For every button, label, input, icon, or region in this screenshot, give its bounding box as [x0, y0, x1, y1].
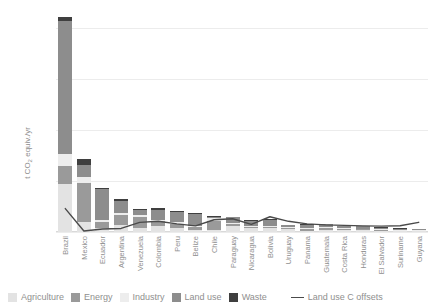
x-label-slot: Honduras — [354, 234, 373, 280]
legend-label: Land use — [185, 292, 222, 302]
gridline — [56, 232, 428, 233]
legend-line-icon — [291, 297, 304, 298]
x-tick-label: Colombia — [154, 236, 163, 268]
x-tick-label: Nicaragua — [247, 236, 256, 270]
legend-item-waste[interactable]: Waste — [229, 292, 267, 302]
x-tick-label: Peru — [172, 236, 181, 252]
y-axis-title-pre: t CO — [23, 162, 32, 178]
x-axis-labels: BrazilMexicoEcuadorArgentinaVenezuelaCol… — [56, 234, 428, 280]
y-axis-title-sub: 2 — [27, 159, 33, 162]
stacked-bar-chart: t CO2 equiv./yr 05001,0001,5002,000 Braz… — [0, 0, 433, 306]
plot-area: 05001,0001,5002,000 — [56, 8, 428, 232]
x-label-slot: Uruguay — [279, 234, 298, 280]
legend-label: Agriculture — [21, 292, 64, 302]
x-tick-label: Mexico — [79, 236, 88, 260]
legend-item-energy[interactable]: Energy — [71, 292, 113, 302]
y-axis-title-post: equiv./yr — [23, 127, 32, 159]
x-label-slot: Guatemala — [316, 234, 335, 280]
chart-legend: AgricultureEnergyIndustryLand useWasteLa… — [8, 292, 428, 302]
legend-swatch-icon — [120, 293, 129, 302]
x-label-slot: Belize — [186, 234, 205, 280]
x-label-slot: Chile — [205, 234, 224, 280]
x-label-slot: Paraguay — [223, 234, 242, 280]
x-tick-label: Bolivia — [265, 236, 274, 258]
legend-swatch-icon — [71, 293, 80, 302]
legend-item-land-use[interactable]: Land use — [172, 292, 222, 302]
legend-item-land-use-c-offsets[interactable]: Land use C offsets — [291, 292, 383, 302]
y-axis-title: t CO2 equiv./yr — [23, 127, 34, 179]
x-tick-label: Suriname — [395, 236, 404, 268]
x-label-slot: Bolivia — [261, 234, 280, 280]
x-tick-label: Ecuador — [98, 236, 107, 264]
x-label-slot: Venezuela — [130, 234, 149, 280]
legend-label: Land use C offsets — [308, 292, 383, 302]
x-tick-label: Argentina — [117, 236, 126, 268]
x-tick-label: Belize — [191, 236, 200, 256]
legend-label: Energy — [84, 292, 113, 302]
x-tick-label: El Salvador — [377, 236, 386, 274]
x-label-slot: Costa Rica — [335, 234, 354, 280]
x-tick-label: Guyana — [414, 236, 423, 262]
x-label-slot: Panama — [298, 234, 317, 280]
x-label-slot: Nicaragua — [242, 234, 261, 280]
x-label-slot: Peru — [168, 234, 187, 280]
x-tick-label: Uruguay — [284, 236, 293, 264]
x-label-slot: Guyana — [409, 234, 428, 280]
x-tick-label: Paraguay — [228, 236, 237, 268]
x-label-slot: El Salvador — [372, 234, 391, 280]
legend-label: Waste — [242, 292, 267, 302]
legend-item-industry[interactable]: Industry — [120, 292, 165, 302]
legend-item-agriculture[interactable]: Agriculture — [8, 292, 64, 302]
x-label-slot: Suriname — [391, 234, 410, 280]
x-tick-label: Honduras — [358, 236, 367, 269]
x-tick-label: Costa Rica — [340, 236, 349, 273]
x-label-slot: Brazil — [56, 234, 75, 280]
x-label-slot: Mexico — [75, 234, 94, 280]
land-use-c-offsets-line — [56, 8, 428, 232]
x-tick-label: Panama — [303, 236, 312, 264]
legend-swatch-icon — [229, 293, 238, 302]
x-label-slot: Colombia — [149, 234, 168, 280]
legend-swatch-icon — [172, 293, 181, 302]
legend-swatch-icon — [8, 293, 17, 302]
x-label-slot: Ecuador — [93, 234, 112, 280]
x-tick-label: Guatemala — [321, 236, 330, 273]
legend-label: Industry — [133, 292, 165, 302]
x-tick-label: Chile — [210, 236, 219, 253]
x-label-slot: Argentina — [112, 234, 131, 280]
x-tick-label: Brazil — [61, 236, 70, 255]
x-tick-label: Venezuela — [135, 236, 144, 271]
